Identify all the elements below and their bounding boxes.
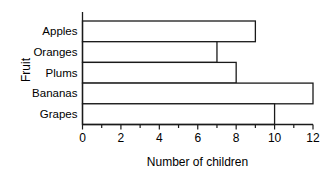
y-axis-title: Fruit — [19, 57, 33, 82]
x-axis-tick-label: 4 — [156, 131, 163, 145]
x-axis-tick-label: 8 — [233, 131, 240, 145]
x-axis-tick-label: 2 — [118, 131, 125, 145]
category-label: Plums — [46, 67, 78, 79]
bar — [83, 21, 256, 42]
bar — [83, 83, 314, 104]
x-axis-tick-label: 12 — [306, 131, 320, 145]
x-axis-title: Number of children — [147, 155, 248, 169]
bar-chart-figure: ApplesOrangesPlumsBananasGrapes 02468101… — [0, 0, 331, 172]
bar — [83, 104, 275, 125]
bar — [83, 62, 237, 83]
x-axis-tick-label: 6 — [194, 131, 201, 145]
bar — [83, 42, 217, 63]
category-label: Grapes — [40, 108, 78, 120]
x-axis-tick-label: 0 — [79, 131, 86, 145]
category-label: Oranges — [33, 46, 77, 58]
category-label: Apples — [42, 25, 77, 37]
x-axis-tick-label: 10 — [268, 131, 282, 145]
category-label: Bananas — [32, 87, 78, 99]
horizontal-bar-chart: ApplesOrangesPlumsBananasGrapes 02468101… — [0, 0, 331, 172]
